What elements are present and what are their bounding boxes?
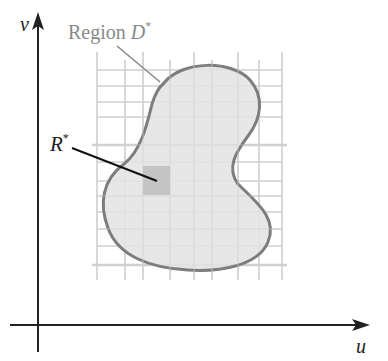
region-label-superscript: * <box>145 19 151 33</box>
u-axis-label: u <box>356 336 366 356</box>
r-label-superscript: * <box>63 131 69 145</box>
change-of-variables-diagram <box>0 0 388 361</box>
region-label-symbol: D <box>131 21 145 43</box>
region-label-prefix: Region <box>68 21 131 43</box>
region-d-star <box>103 65 270 270</box>
r-star-label: R* <box>50 134 69 155</box>
v-axis-label: v <box>20 14 29 34</box>
region-d-star-label: Region D* <box>68 22 151 42</box>
r-label-symbol: R <box>50 132 63 156</box>
region-leader-line <box>117 46 160 82</box>
